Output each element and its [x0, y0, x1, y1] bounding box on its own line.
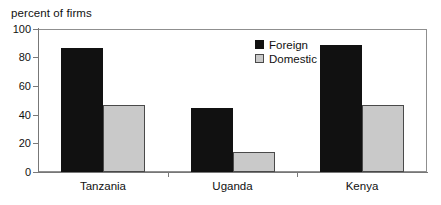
x-tick-label-tanzania: Tanzania — [38, 180, 168, 193]
bar-chart: percent of firms 100 80 60 40 20 0 Tanza… — [0, 0, 441, 205]
bar-tanzania-domestic — [103, 105, 145, 172]
x-tick-mark-2 — [297, 172, 298, 177]
bar-kenya-domestic — [362, 105, 404, 172]
legend-item-domestic: Domestic — [255, 52, 333, 65]
legend-label-domestic: Domestic — [269, 53, 317, 65]
y-tick-label-80: 80 — [1, 52, 31, 63]
legend-label-foreign: Foreign — [269, 39, 308, 51]
y-tick-label-20: 20 — [1, 138, 31, 149]
x-tick-label-kenya: Kenya — [297, 180, 427, 193]
bar-uganda-foreign — [191, 108, 233, 172]
y-tick-label-60: 60 — [1, 81, 31, 92]
y-tick-label-0: 0 — [1, 167, 31, 178]
legend-item-foreign: Foreign — [255, 38, 333, 51]
x-tick-label-uganda: Uganda — [168, 180, 297, 193]
bars-layer — [38, 29, 427, 172]
legend-swatch-foreign-icon — [255, 40, 264, 49]
x-axis-line — [38, 172, 428, 173]
x-tick-mark-1 — [168, 172, 169, 177]
legend: Foreign Domestic — [255, 38, 333, 66]
legend-swatch-domestic-icon — [255, 54, 264, 63]
bar-tanzania-foreign — [61, 48, 103, 172]
y-tick-mark-0 — [33, 172, 39, 173]
bar-uganda-domestic — [233, 152, 275, 172]
y-axis-labels: 100 80 60 40 20 0 — [0, 0, 31, 205]
y-tick-label-40: 40 — [1, 110, 31, 121]
y-tick-label-100: 100 — [1, 24, 31, 35]
